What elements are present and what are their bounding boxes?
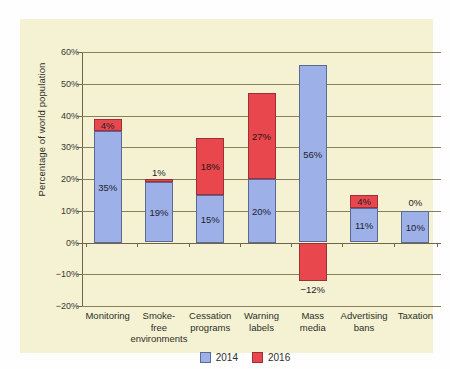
bar-segment-2014[interactable]: 35%: [94, 131, 122, 242]
bar-value-label-2016: 4%: [351, 196, 377, 207]
legend-label: 2014: [216, 352, 238, 363]
x-tick-mark: [342, 243, 343, 247]
bar-group[interactable]: 20%27%: [248, 52, 276, 306]
bar-value-label-2014: 35%: [95, 182, 121, 193]
bar-value-label-2014: 11%: [351, 220, 377, 231]
chart-figure: Percentage of world population 60%50%40%…: [0, 0, 450, 369]
bar-value-label-2014: 20%: [249, 206, 275, 217]
y-tick-mark: [77, 147, 82, 148]
x-category-label-line: Taxation: [384, 310, 447, 322]
bar-group[interactable]: 15%18%: [196, 52, 224, 306]
x-category-label-line: bans: [332, 322, 395, 334]
bar-group[interactable]: 56%−12%: [299, 52, 327, 306]
y-tick-mark: [77, 179, 82, 180]
x-tick-mark: [437, 243, 438, 247]
legend-swatch-icon: [200, 352, 211, 363]
y-tick-mark: [77, 84, 82, 85]
legend-item[interactable]: 2014: [200, 352, 238, 363]
y-tick-mark: [77, 211, 82, 212]
x-category-label-line: environments: [127, 333, 190, 345]
x-tick-mark: [189, 243, 190, 247]
bar-segment-2014[interactable]: 11%: [350, 208, 378, 243]
plot-area: 35%4%19%1%15%18%20%27%56%−12%11%4%10%0%: [82, 52, 441, 306]
legend-swatch-icon: [252, 352, 263, 363]
bar-group[interactable]: 35%4%: [94, 52, 122, 306]
bar-segment-2014[interactable]: 10%: [401, 211, 429, 243]
y-tick-mark: [77, 274, 82, 275]
bar-value-label-2016: 0%: [401, 197, 429, 208]
bar-segment-2014[interactable]: 56%: [299, 65, 327, 243]
gridline--20: [82, 306, 441, 307]
y-axis-tick-labels: 60%50%40%30%20%10%0%−10%−20%: [34, 52, 79, 306]
bar-group[interactable]: 19%1%: [145, 52, 173, 306]
bar-group[interactable]: 11%4%: [350, 52, 378, 306]
bar-segment-2016[interactable]: 18%: [196, 138, 224, 195]
x-tick-mark: [86, 243, 87, 247]
y-tick-mark: [77, 243, 82, 244]
bar-segment-2016[interactable]: 1%: [145, 179, 173, 182]
y-tick-mark: [77, 52, 82, 53]
bar-segment-2016[interactable]: −12%: [299, 243, 327, 281]
bar-value-label-2014: 10%: [402, 222, 428, 233]
x-tick-mark: [137, 243, 138, 247]
y-tick-label: −10%: [56, 269, 79, 279]
y-tick-mark: [77, 116, 82, 117]
bar-segment-2016[interactable]: 4%: [94, 119, 122, 132]
y-tick-mark: [77, 306, 82, 307]
x-tick-mark: [240, 243, 241, 247]
bar-value-label-2016: 4%: [95, 120, 121, 131]
bar-value-label-2014: 19%: [146, 207, 172, 218]
bar-value-label-2016: 1%: [146, 167, 172, 178]
chart-panel: Percentage of world population 60%50%40%…: [20, 19, 433, 353]
bar-value-label-2014: 15%: [197, 214, 223, 225]
x-category-label: Taxation: [384, 310, 447, 322]
bar-value-label-2016: 18%: [197, 161, 223, 172]
bar-value-label-2016: 27%: [249, 131, 275, 142]
bar-value-label-2014: 56%: [300, 149, 326, 160]
bar-segment-2014[interactable]: 19%: [145, 182, 173, 242]
x-tick-mark: [291, 243, 292, 247]
bar-group[interactable]: 10%0%: [401, 52, 429, 306]
legend-label: 2016: [268, 352, 290, 363]
bar-value-label-2016: −12%: [300, 284, 326, 295]
x-tick-mark: [394, 243, 395, 247]
bar-segment-2016[interactable]: 27%: [248, 93, 276, 179]
legend-item[interactable]: 2016: [252, 352, 290, 363]
bar-segment-2016[interactable]: 4%: [350, 195, 378, 208]
bar-segment-2014[interactable]: 20%: [248, 179, 276, 243]
bar-segment-2014[interactable]: 15%: [196, 195, 224, 243]
chart-legend: 20142016: [20, 352, 450, 363]
